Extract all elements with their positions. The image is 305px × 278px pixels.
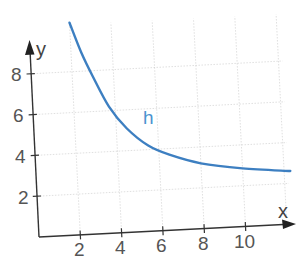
grid-vertical [235,16,245,220]
y-tick-label-6: 6 [13,105,24,126]
grid-vertical [111,23,121,227]
x-tick-label-4: 4 [115,237,126,258]
curve-label-h: h [143,107,154,128]
curve-h [69,23,290,171]
grid-horizontal [35,143,287,156]
y-axis [30,50,39,237]
plot-area: h x y 2 4 6 8 10 2 4 6 8 [0,0,305,278]
function-graph: h x y 2 4 6 8 10 2 4 6 8 [0,0,305,278]
grid-vertical [152,21,162,225]
x-tick-label-8: 8 [198,233,209,254]
y-axis-label: y [36,38,46,60]
grid-horizontal [33,102,285,115]
gridlines [31,14,289,229]
grid-vertical [276,14,286,218]
y-tick-label-4: 4 [15,146,26,167]
grid-horizontal [37,183,289,196]
grid-horizontal [31,61,283,74]
grid-vertical [193,18,203,222]
x-tick-label-2: 2 [74,239,85,260]
y-tick-label-2: 2 [18,187,29,208]
y-axis-arrow-icon [25,40,35,55]
ticks [27,74,246,240]
x-axis-label: x [278,200,288,222]
x-tick-label-10: 10 [234,231,255,252]
axes [25,40,296,237]
grid-vertical [70,25,80,229]
y-tick-label-8: 8 [11,64,22,85]
x-tick-label-6: 6 [156,235,167,256]
